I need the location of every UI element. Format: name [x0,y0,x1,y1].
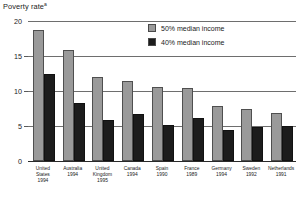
bar-group [271,21,293,161]
bar-group [241,21,263,161]
bar [152,87,163,161]
y-tick-label: 15 [8,52,22,61]
legend-item: 40% median income [148,38,224,46]
legend-swatch-50-icon [148,24,156,32]
bar [193,118,204,161]
bar-group [63,21,85,161]
bar [92,77,103,161]
bar [252,127,263,161]
bar [133,114,144,161]
bar-group [92,21,114,161]
x-tick-label-line: 1994 [25,178,61,184]
legend-swatch-40-icon [148,38,156,46]
y-tick-label: 0 [8,157,22,166]
bar [122,81,133,161]
bar [282,126,293,161]
bar [63,50,74,161]
chart-legend: 50% median income 40% median income [148,24,224,52]
bar [74,103,85,161]
bar [241,109,252,162]
bar [163,125,174,161]
legend-label-40: 40% median income [161,39,224,46]
x-axis-baseline [28,161,296,162]
bar [223,130,234,161]
y-tick-label: 5 [8,122,22,131]
axis-title-footnote-marker: a [44,1,47,7]
chart-axis-title: Poverty ratea [3,1,47,11]
bar [103,120,114,161]
bar [212,106,223,161]
bar-group [33,21,55,161]
x-tick-label-line: 1991 [263,172,299,178]
y-tick-label: 20 [8,17,22,26]
bar-group [122,21,144,161]
y-tick-label: 10 [8,87,22,96]
legend-label-50: 50% median income [161,25,224,32]
bar [271,113,282,161]
legend-item: 50% median income [148,24,224,32]
poverty-rate-bar-chart: Poverty ratea 05101520 UnitedStates1994A… [0,0,299,204]
axis-title-text: Poverty rate [3,2,44,11]
x-tick-label: Netherlands1991 [263,166,299,178]
bar [182,88,193,162]
x-tick-label-line: 1995 [85,178,121,184]
bar [33,30,44,161]
bar [44,74,55,162]
